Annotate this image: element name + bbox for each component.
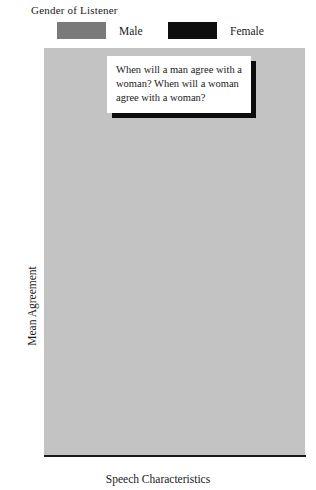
legend-label-male: Male [119, 25, 143, 37]
callout-text: When will a man agree with a woman? When… [116, 64, 242, 103]
legend-swatch-female [168, 22, 217, 39]
x-axis-baseline [44, 455, 306, 457]
legend-entry-male: Male [57, 22, 143, 39]
legend-title: Gender of Listener [31, 4, 118, 16]
x-axis-label: Speech Characteristics [0, 473, 316, 485]
callout-textbox: When will a man agree with a woman? When… [107, 56, 251, 113]
legend-label-female: Female [230, 25, 264, 37]
legend-swatch-male [57, 22, 106, 39]
legend-entry-female: Female [168, 22, 264, 39]
y-axis-label: Mean Agreement [26, 251, 38, 361]
